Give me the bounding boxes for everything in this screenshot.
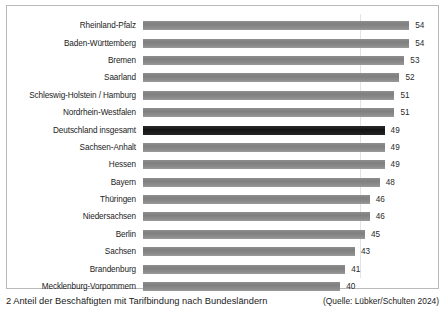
bar: [143, 230, 365, 239]
bar-value-label: 46: [370, 212, 385, 221]
bar-category-label: Berlin: [7, 230, 143, 239]
bar: [143, 39, 409, 48]
bar-row: Brandenburg41: [7, 260, 438, 277]
bar-row: Baden-Württemberg54: [7, 34, 438, 51]
bar-value-label: 46: [370, 195, 385, 204]
bar-track: 40: [143, 278, 438, 295]
bar-category-label: Hessen: [7, 160, 143, 169]
bar-row: Sachsen-Anhalt49: [7, 139, 438, 156]
bar-track: 49: [143, 139, 438, 156]
bar-value-label: 40: [340, 282, 355, 291]
bar-category-label: Saarland: [7, 73, 143, 82]
bar-row: Deutschland insgesamt49: [7, 121, 438, 138]
caption-bar: 2 Anteil der Beschäftigten mit Tarifbind…: [6, 295, 439, 307]
bar-row: Saarland52: [7, 69, 438, 86]
bar-row: Hessen49: [7, 156, 438, 173]
plot-area: Rheinland-Pfalz54Baden-Württemberg54Brem…: [7, 6, 438, 288]
bar-category-label: Niedersachsen: [7, 212, 143, 221]
bar-track: 54: [143, 17, 438, 34]
bar: [143, 91, 394, 100]
bar-category-label: Bremen: [7, 56, 143, 65]
bar: [143, 212, 370, 221]
bar-row: Mecklenburg-Vorpommern40: [7, 278, 438, 295]
bar-category-label: Rheinland-Pfalz: [7, 21, 143, 30]
bar-value-label: 43: [355, 247, 370, 256]
bar-track: 43: [143, 243, 438, 260]
bar-value-label: 49: [385, 160, 400, 169]
bar: [143, 195, 370, 204]
bar-category-label: Mecklenburg-Vorpommern: [7, 282, 143, 291]
bar-category-label: Baden-Württemberg: [7, 39, 143, 48]
bar-value-label: 41: [345, 265, 360, 274]
bar-category-label: Deutschland insgesamt: [7, 126, 143, 135]
bar: [143, 282, 340, 291]
bar-track: 46: [143, 208, 438, 225]
bar-category-label: Sachsen: [7, 247, 143, 256]
bar-track: 51: [143, 87, 438, 104]
bar-row: Berlin45: [7, 226, 438, 243]
bar-value-label: 49: [385, 126, 400, 135]
bar-row: Niedersachsen46: [7, 208, 438, 225]
bar: [143, 21, 409, 30]
bar: [143, 265, 345, 274]
bar-highlight: [143, 126, 385, 135]
figure-caption: 2 Anteil der Beschäftigten mit Tarifbind…: [6, 295, 267, 307]
bar: [143, 56, 404, 65]
bar-value-label: 48: [380, 178, 395, 187]
bar-value-label: 49: [385, 143, 400, 152]
chart-frame: Rheinland-Pfalz54Baden-Württemberg54Brem…: [6, 5, 439, 289]
bar-track: 49: [143, 121, 438, 138]
bar-category-label: Schleswig-Holstein / Hamburg: [7, 91, 143, 100]
bar-row: Nordrhein-Westfalen51: [7, 104, 438, 121]
bar-value-label: 51: [394, 91, 409, 100]
bar-value-label: 52: [399, 73, 414, 82]
bar-value-label: 54: [409, 21, 424, 30]
bar-row: Bremen53: [7, 52, 438, 69]
bar-category-label: Sachsen-Anhalt: [7, 143, 143, 152]
bar-row: Rheinland-Pfalz54: [7, 17, 438, 34]
chart-page: Rheinland-Pfalz54Baden-Württemberg54Brem…: [0, 0, 445, 315]
bar-row: Thüringen46: [7, 191, 438, 208]
bar-value-label: 54: [409, 39, 424, 48]
bar-value-label: 51: [394, 108, 409, 117]
figure-source: (Quelle: Lübker/Schulten 2024): [323, 295, 439, 307]
bar-row: Bayern48: [7, 174, 438, 191]
bar-rows: Rheinland-Pfalz54Baden-Württemberg54Brem…: [7, 17, 438, 295]
bar-track: 53: [143, 52, 438, 69]
bar: [143, 73, 399, 82]
bar-value-label: 45: [365, 230, 380, 239]
bar-row: Sachsen43: [7, 243, 438, 260]
bar-track: 41: [143, 260, 438, 277]
bar: [143, 247, 355, 256]
bar-track: 48: [143, 174, 438, 191]
bar-category-label: Bayern: [7, 178, 143, 187]
bar: [143, 178, 380, 187]
bar-track: 45: [143, 226, 438, 243]
bar: [143, 160, 385, 169]
bar-value-label: 53: [404, 56, 419, 65]
bar: [143, 108, 394, 117]
bar-track: 46: [143, 191, 438, 208]
bar-track: 51: [143, 104, 438, 121]
bar-category-label: Brandenburg: [7, 265, 143, 274]
bar: [143, 143, 385, 152]
bar-track: 49: [143, 156, 438, 173]
bar-row: Schleswig-Holstein / Hamburg51: [7, 87, 438, 104]
bar-track: 52: [143, 69, 438, 86]
bar-category-label: Thüringen: [7, 195, 143, 204]
bar-category-label: Nordrhein-Westfalen: [7, 108, 143, 117]
bar-track: 54: [143, 34, 438, 51]
